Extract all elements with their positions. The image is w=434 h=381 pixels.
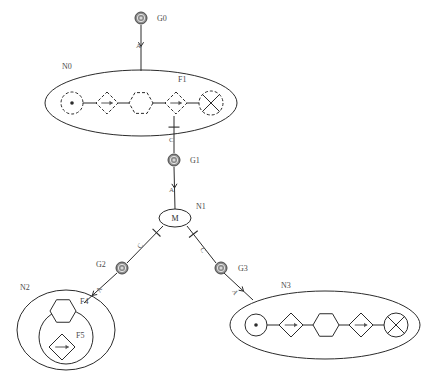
edge-e-n1-g3[interactable]: C [187, 226, 216, 263]
node-circle-dot-N0[interactable] [61, 92, 83, 114]
gnode-core [219, 266, 222, 269]
edge-label-e-g2-n2: A [95, 286, 104, 294]
edge-line [187, 226, 216, 263]
edge-label-e-n0-g1: C [169, 136, 174, 144]
gnode-G2[interactable]: G2 [96, 260, 128, 274]
hexagon-icon [129, 93, 153, 114]
dot-center-icon [70, 101, 74, 105]
edge-e-g1-n1[interactable]: A [169, 167, 177, 209]
group-label-N2: N2 [20, 283, 30, 292]
group-label-N0: N0 [62, 62, 72, 71]
gnode-G0[interactable]: G0 [135, 12, 167, 24]
member-label-F1: F1 [178, 75, 186, 84]
edge-label-e-n1-g2: C [136, 242, 145, 250]
edge-e-g2-n2[interactable]: A [84, 273, 117, 303]
edge-line [224, 273, 253, 300]
mnode-N1[interactable]: MN1 [159, 202, 206, 227]
gnode-label-G3: G3 [238, 264, 248, 273]
gnode-G1[interactable]: G1 [168, 154, 200, 166]
node-circle-cross-N0[interactable] [199, 91, 223, 115]
node-diamond-arrow-N3[interactable] [349, 313, 373, 337]
edge-e-g0-n0[interactable]: A [136, 25, 144, 71]
gnode-core [139, 16, 142, 19]
graph-diagram: N0N2N3F1F4F5ACACACAMN1G0G1G2G3 [0, 0, 434, 381]
edge-e-n1-g2[interactable]: C [127, 226, 163, 263]
gnode-G3[interactable]: G3 [215, 262, 248, 274]
gnode-core [120, 266, 123, 269]
edge-label-e-g0-n0: A [136, 42, 141, 50]
hexagon-icon [50, 300, 76, 323]
node-diamond-arrow-N0[interactable]: F1 [165, 75, 187, 114]
edge-bar-terminator-icon [189, 231, 198, 238]
gnode-label-G2: G2 [96, 260, 106, 269]
node-hexagon-N3[interactable] [313, 314, 339, 337]
node-hexagon-N0[interactable] [129, 93, 153, 114]
mnode-label-N1: N1 [196, 202, 206, 211]
member-label-F5: F5 [76, 331, 84, 340]
hexagon-icon [313, 314, 339, 337]
mnode-inner-label: M [171, 214, 178, 223]
dot-center-icon [254, 323, 258, 327]
node-diamond-arrow-N2[interactable]: F5 [49, 331, 84, 360]
member-label-F4: F4 [80, 297, 88, 306]
node-diamond-arrow-N0[interactable] [96, 92, 118, 114]
node-circle-dot-N3[interactable] [245, 314, 267, 336]
edge-label-e-g1-n1: A [169, 186, 174, 194]
gnode-core [172, 158, 175, 161]
diagram-canvas: N0N2N3F1F4F5ACACACAMN1G0G1G2G3 [0, 0, 434, 381]
node-diamond-arrow-N3[interactable] [279, 313, 303, 337]
node-hexagon-N2[interactable]: F4 [50, 297, 88, 322]
edge-line [127, 226, 163, 263]
gnode-label-G1: G1 [190, 156, 200, 165]
gnode-label-G0: G0 [157, 14, 167, 23]
group-label-N3: N3 [281, 281, 291, 290]
edge-label-e-g3-n3: A [230, 288, 239, 296]
group-N2[interactable]: N2 [17, 283, 115, 370]
edge-e-g3-n3[interactable]: A [224, 273, 253, 300]
edge-label-e-n1-g3: C [198, 246, 207, 254]
node-circle-cross-N3[interactable] [384, 313, 408, 337]
